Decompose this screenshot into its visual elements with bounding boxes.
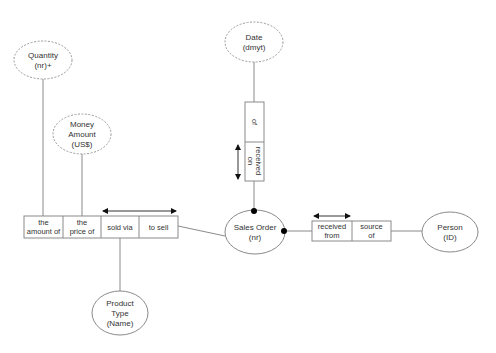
svg-text:of: of (250, 119, 259, 126)
value-type-quantity[interactable]: Quantity (nr)+ (14, 41, 72, 79)
svg-text:Date: Date (246, 33, 263, 42)
value-type-money-amount[interactable]: Money Amount (US$) (53, 114, 111, 154)
svg-text:the: the (38, 218, 48, 227)
svg-text:Quantity: Quantity (28, 51, 58, 60)
connectors (43, 62, 422, 291)
svg-text:from: from (325, 231, 340, 240)
entity-type-product-type[interactable]: Product Type (Name) (92, 291, 148, 335)
mandatory-dot-icon (251, 208, 257, 214)
svg-text:Product: Product (106, 299, 134, 308)
svg-text:(nr): (nr) (249, 233, 262, 242)
svg-text:(Name): (Name) (107, 319, 134, 328)
svg-text:Sales Order: Sales Order (234, 223, 277, 232)
svg-text:amount of: amount of (27, 227, 61, 236)
svg-text:Type: Type (111, 309, 129, 318)
svg-text:received: received (318, 222, 346, 231)
entity-type-sales-order[interactable]: Sales Order (nr) (225, 210, 285, 254)
svg-text:(ID): (ID) (443, 233, 457, 242)
svg-text:(dmyt): (dmyt) (243, 43, 266, 52)
fact-type-date[interactable]: of received on (245, 102, 264, 181)
value-type-date[interactable]: Date (dmyt) (225, 22, 283, 62)
entity-type-person[interactable]: Person (ID) (422, 212, 478, 252)
svg-text:Person: Person (437, 223, 462, 232)
sales-order-left-connector (178, 226, 225, 236)
svg-text:sold via: sold via (107, 223, 133, 232)
svg-text:Money: Money (70, 120, 94, 129)
svg-text:on: on (246, 157, 255, 165)
fact-type-person[interactable]: received from source of (312, 221, 391, 241)
svg-text:source: source (360, 222, 383, 231)
svg-text:Amount: Amount (68, 130, 96, 139)
svg-text:(US$): (US$) (72, 140, 93, 149)
mandatory-dot-icon (281, 228, 287, 234)
fact-type-quaternary[interactable]: the amount of the price of sold via to s… (24, 216, 178, 238)
orm-diagram: Quantity (nr)+ Money Amount (US$) Date (… (0, 0, 496, 353)
svg-text:of: of (368, 231, 375, 240)
svg-text:to sell: to sell (149, 223, 169, 232)
svg-text:price of: price of (70, 227, 96, 236)
svg-text:the: the (77, 218, 87, 227)
svg-text:(nr)+: (nr)+ (34, 61, 51, 70)
